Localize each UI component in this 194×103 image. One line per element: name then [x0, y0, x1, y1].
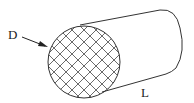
- cylinder-body-outline: [80, 10, 182, 92]
- diameter-arrowhead-icon: [38, 41, 48, 47]
- end-face-hatch: [0, 26, 184, 98]
- cylinder-diagram: D L: [0, 0, 194, 103]
- cylinder-drawing: [0, 0, 194, 103]
- end-face-circle: [48, 26, 120, 98]
- length-label: L: [141, 86, 149, 99]
- diameter-label: D: [8, 28, 17, 41]
